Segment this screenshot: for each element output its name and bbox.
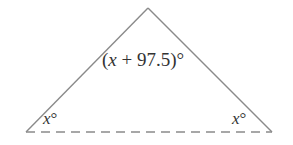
- apex-angle-label: (x + 97.5)°: [102, 49, 184, 71]
- left-angle-label: x°: [43, 109, 57, 129]
- right-angle-label: x°: [232, 109, 246, 129]
